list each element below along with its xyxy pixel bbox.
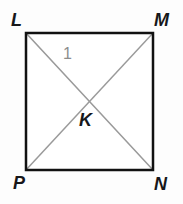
vertex-label-L: L bbox=[11, 11, 22, 29]
geometry-figure: L M N P K 1 bbox=[0, 0, 183, 204]
vertex-label-N: N bbox=[154, 175, 167, 193]
angle-label-1: 1 bbox=[63, 46, 72, 62]
vertex-label-M: M bbox=[154, 11, 169, 29]
intersection-label-K: K bbox=[79, 111, 92, 129]
vertex-label-P: P bbox=[13, 174, 25, 192]
